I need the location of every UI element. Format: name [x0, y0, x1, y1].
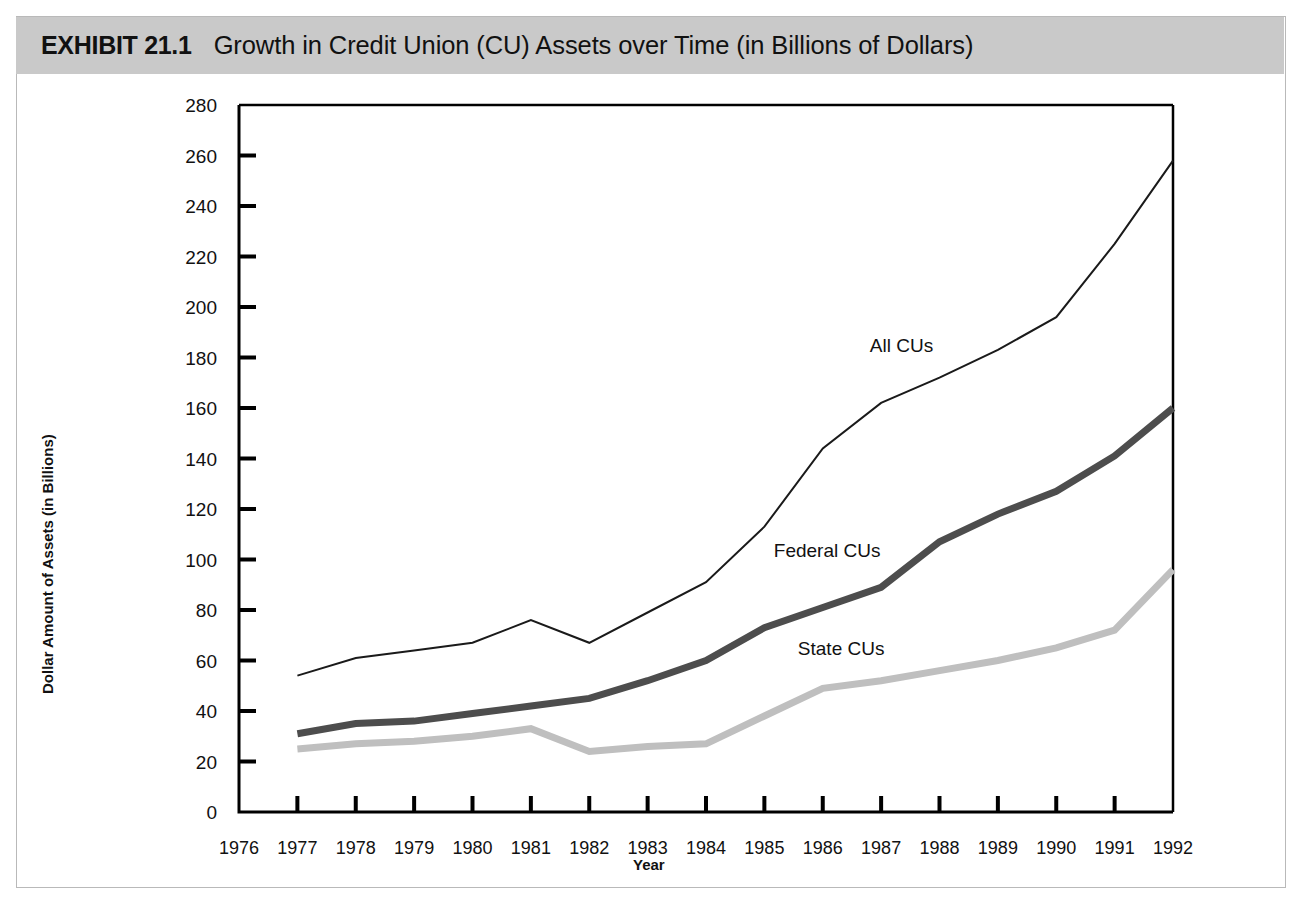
y-tick-label: 60	[196, 651, 217, 672]
series-line-state-cus[interactable]	[297, 570, 1173, 752]
x-tick-label: 1976	[219, 838, 259, 858]
x-tick-label: 1982	[569, 838, 609, 858]
exhibit-page: EXHIBIT 21.1 Growth in Credit Union (CU)…	[0, 0, 1308, 923]
chart-area: Dollar Amount of Assets (in Billions) Ye…	[17, 74, 1285, 887]
plot-axes	[239, 105, 1173, 812]
y-tick-label: 280	[185, 95, 217, 116]
y-tick-label: 120	[185, 499, 217, 520]
x-tick-label: 1989	[978, 838, 1018, 858]
y-tick-label: 180	[185, 348, 217, 369]
x-tick-label: 1977	[277, 838, 317, 858]
series-label-all-cus: All CUs	[870, 335, 933, 356]
x-axis-ticks: 1976197719781979198019811982198319841985…	[219, 796, 1193, 858]
x-tick-label: 1988	[919, 838, 959, 858]
x-tick-label: 1984	[686, 838, 726, 858]
x-tick-label: 1992	[1153, 838, 1193, 858]
series-label-state-cus: State CUs	[798, 638, 885, 659]
data-series-group	[297, 161, 1173, 752]
x-tick-label: 1981	[511, 838, 551, 858]
y-tick-label: 0	[206, 802, 217, 823]
exhibit-title-text: Growth in Credit Union (CU) Assets over …	[214, 31, 974, 60]
series-label-federal-cus: Federal CUs	[774, 540, 881, 561]
x-tick-label: 1983	[628, 838, 668, 858]
exhibit-number: EXHIBIT 21.1	[41, 31, 192, 60]
y-tick-label: 80	[196, 600, 217, 621]
y-tick-label: 100	[185, 550, 217, 571]
series-line-all-cus[interactable]	[297, 161, 1173, 676]
y-axis-ticks: 020406080100120140160180200220240260280	[185, 95, 256, 823]
y-tick-label: 20	[196, 752, 217, 773]
y-tick-label: 40	[196, 701, 217, 722]
x-tick-label: 1991	[1095, 838, 1135, 858]
series-annotations-group: All CUsFederal CUsState CUs	[774, 335, 933, 659]
x-tick-label: 1980	[452, 838, 492, 858]
y-tick-label: 140	[185, 449, 217, 470]
x-tick-label: 1979	[394, 838, 434, 858]
exhibit-title-inner: EXHIBIT 21.1 Growth in Credit Union (CU)…	[16, 31, 973, 60]
line-chart-plot: 020406080100120140160180200220240260280 …	[17, 74, 1285, 887]
y-tick-label: 200	[185, 297, 217, 318]
exhibit-title-banner: EXHIBIT 21.1 Growth in Credit Union (CU)…	[16, 17, 1284, 74]
x-tick-label: 1985	[744, 838, 784, 858]
y-tick-label: 260	[185, 146, 217, 167]
y-tick-label: 160	[185, 398, 217, 419]
y-tick-label: 240	[185, 196, 217, 217]
x-tick-label: 1986	[803, 838, 843, 858]
axis-spines	[239, 105, 1173, 812]
x-tick-label: 1990	[1036, 838, 1076, 858]
y-tick-label: 220	[185, 247, 217, 268]
x-tick-label: 1978	[336, 838, 376, 858]
series-line-federal-cus[interactable]	[297, 408, 1173, 734]
x-tick-label: 1987	[861, 838, 901, 858]
